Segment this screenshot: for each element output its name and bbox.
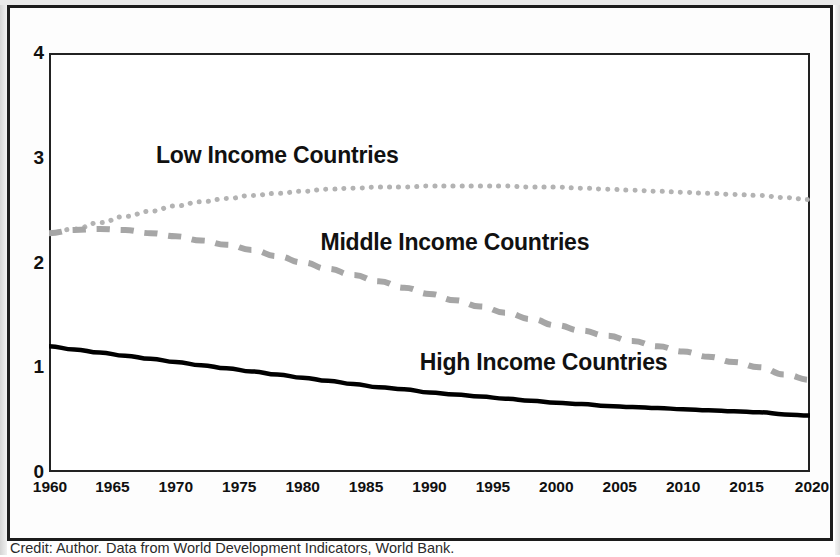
- y-axis-tick-3: 3: [8, 148, 44, 167]
- x-axis-tick-1975: 1975: [222, 479, 256, 495]
- x-axis-tick-2020: 2020: [795, 479, 829, 495]
- x-axis-tick-1960: 1960: [33, 479, 67, 495]
- x-axis-tick-2005: 2005: [603, 479, 637, 495]
- y-axis-tick-4: 4: [8, 43, 44, 62]
- x-axis-tick-2010: 2010: [666, 479, 700, 495]
- plot-series-canvas: [49, 53, 810, 472]
- x-axis-tick-2000: 2000: [539, 479, 573, 495]
- x-axis-tick-1980: 1980: [285, 479, 319, 495]
- x-axis-tick-2015: 2015: [729, 479, 763, 495]
- x-axis-tick-1985: 1985: [349, 479, 383, 495]
- figure-caption: Credit: Author. Data from World Developm…: [10, 541, 454, 557]
- series-label-low-income-countries: Low Income Countries: [156, 144, 399, 167]
- x-axis-tick-1970: 1970: [159, 479, 193, 495]
- y-axis-tick-2: 2: [8, 253, 44, 272]
- series-group: [49, 186, 810, 415]
- series-label-high-income-countries: High Income Countries: [420, 351, 668, 374]
- scan-edge-right: [835, 0, 840, 555]
- series-line-low-income-countries: [49, 186, 810, 233]
- x-axis-tick-labels: 1960196519701975198019851990199520002005…: [0, 479, 840, 505]
- x-axis-tick-1995: 1995: [476, 479, 510, 495]
- y-axis-tick-labels: 01234: [0, 0, 44, 555]
- x-axis-tick-1990: 1990: [412, 479, 446, 495]
- x-axis-tick-1965: 1965: [95, 479, 129, 495]
- series-label-middle-income-countries: Middle Income Countries: [320, 231, 589, 254]
- y-axis-tick-1: 1: [8, 357, 44, 376]
